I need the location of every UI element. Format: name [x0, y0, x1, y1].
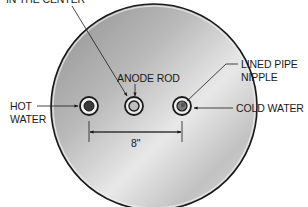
hot-water-label-line1: HOT	[10, 100, 32, 112]
anode-rod-icon	[125, 97, 143, 115]
hot-water-fitting-icon	[80, 97, 98, 115]
cold-water-label: COLD WATER	[236, 102, 304, 114]
lined-pipe-nipple-label-line2: NIPPLE	[241, 71, 278, 83]
hot-water-label-line2: WATER	[10, 113, 46, 125]
top-cutoff-label: IN THE CENTER	[6, 0, 85, 5]
water-heater-top-diagram: IN THE CENTER ANODE ROD LINED PIPE NIPPL…	[0, 0, 308, 207]
dimension-label: 8"	[131, 137, 140, 149]
lined-pipe-nipple-label-line1: LINED PIPE	[241, 58, 298, 70]
anode-rod-label: ANODE ROD	[117, 72, 180, 84]
